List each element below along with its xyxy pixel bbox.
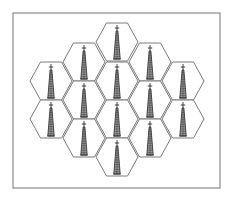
cellular-network-diagram (0, 0, 229, 200)
cell-hexagon-group (96, 23, 138, 61)
cells-layer (30, 23, 204, 176)
